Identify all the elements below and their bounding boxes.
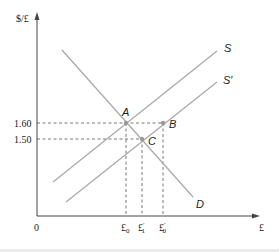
y-tick-1-50: 1.50 (14, 134, 32, 145)
y-tick-1-60: 1.60 (14, 118, 32, 129)
x-axis-arrow-icon (252, 214, 260, 219)
x-tick-pound0prime: £′0 (159, 221, 167, 235)
label-s-prime: S′ (223, 74, 233, 86)
supply-curve-s (53, 51, 217, 182)
x-tick-pound1prime: £′1 (138, 221, 146, 235)
exchange-rate-diagram: $/£ £ 0 1.60 1.50 £0 £′1 £′0 S S′ D A B … (0, 0, 279, 252)
label-d: D (196, 198, 204, 210)
x-tick-pound0: £0 (121, 222, 130, 235)
label-c: C (148, 135, 156, 147)
origin-label: 0 (34, 222, 39, 233)
x-axis-label: £ (259, 222, 264, 233)
label-a: A (121, 106, 129, 118)
label-b: B (169, 118, 176, 130)
point-a (124, 121, 128, 125)
point-b (161, 121, 165, 125)
guide-lines (37, 123, 163, 216)
label-s: S (224, 42, 232, 54)
point-c (140, 137, 144, 141)
y-axis-label: $/£ (16, 13, 29, 24)
y-axis-arrow-icon (35, 12, 40, 20)
supply-curve-s-prime (66, 82, 217, 202)
